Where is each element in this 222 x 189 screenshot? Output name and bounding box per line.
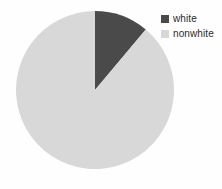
legend-item-nonwhite[interactable]: nonwhite: [161, 28, 214, 39]
legend-label-nonwhite: nonwhite: [173, 29, 214, 39]
legend-label-white: white: [173, 14, 197, 24]
legend-item-white[interactable]: white: [161, 13, 214, 24]
legend-swatch-nonwhite-icon: [161, 30, 169, 38]
chart-legend: white nonwhite: [161, 13, 214, 39]
legend-swatch-white-icon: [161, 15, 169, 23]
pie-slices: [16, 11, 174, 169]
pie-chart: white nonwhite: [0, 0, 222, 189]
